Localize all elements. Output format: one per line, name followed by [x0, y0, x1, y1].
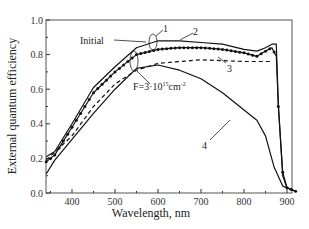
data-marker — [195, 46, 198, 49]
data-marker — [122, 63, 125, 66]
data-marker — [174, 47, 177, 50]
data-marker — [139, 52, 142, 55]
data-marker — [234, 50, 237, 53]
data-marker — [144, 51, 147, 54]
data-marker — [251, 54, 254, 57]
curve-label-1: 1 — [163, 23, 168, 34]
eqe-chart: 4005006007008009000.00.20.40.60.81.0 Ini… — [0, 0, 309, 229]
data-marker — [92, 91, 95, 94]
data-marker — [45, 160, 48, 163]
data-marker — [96, 87, 99, 90]
data-marker — [83, 105, 86, 108]
curve-label-4: 4 — [202, 140, 207, 151]
data-marker — [217, 48, 220, 51]
data-marker — [255, 55, 258, 58]
data-marker — [71, 126, 74, 129]
data-marker — [66, 133, 69, 136]
axis-ticks: 4005006007008009000.00.20.40.60.81.0 — [31, 15, 295, 208]
data-marker — [191, 46, 194, 49]
data-marker — [182, 46, 185, 49]
data-marker — [230, 49, 233, 52]
x-axis-title: Wavelength, nm — [112, 206, 191, 220]
x-tick-label: 900 — [280, 196, 295, 207]
data-marker — [204, 47, 207, 50]
x-tick-label: 400 — [65, 196, 80, 207]
data-marker — [273, 51, 276, 54]
fluence-label: F=3·1015cm-2 — [133, 81, 186, 92]
data-marker — [268, 47, 271, 50]
data-marker — [247, 53, 250, 56]
data-marker — [53, 153, 56, 156]
data-marker — [105, 79, 108, 82]
data-marker — [148, 50, 151, 53]
data-marker — [264, 50, 267, 53]
data-marker — [49, 157, 52, 160]
data-marker — [79, 112, 82, 115]
data-marker — [114, 70, 117, 73]
data-marker — [212, 47, 215, 50]
data-marker — [75, 119, 78, 122]
data-marker — [225, 49, 228, 52]
curve-1 — [46, 41, 295, 192]
data-marker — [88, 98, 91, 101]
data-marker — [131, 57, 134, 60]
data-marker — [161, 48, 164, 51]
data-marker — [200, 46, 203, 49]
data-marker — [281, 171, 284, 174]
data-marker — [187, 46, 190, 49]
x-tick-label: 800 — [237, 196, 252, 207]
data-marker — [157, 48, 160, 51]
y-tick-label: 0.0 — [31, 188, 44, 199]
x-tick-label: 700 — [194, 196, 209, 207]
data-marker — [243, 51, 246, 54]
leader-1 — [156, 30, 163, 36]
data-marker — [178, 46, 181, 49]
data-marker — [118, 67, 121, 70]
initial-label: Initial — [80, 35, 104, 46]
y-tick-label: 0.4 — [31, 118, 44, 129]
data-marker — [277, 105, 280, 108]
data-marker — [238, 51, 241, 54]
data-marker — [126, 60, 129, 63]
curve-label-2: 2 — [193, 26, 198, 37]
y-tick-label: 1.0 — [31, 15, 44, 26]
y-axis-title: External quantum efficiency — [5, 38, 19, 174]
data-marker — [62, 140, 65, 143]
data-marker — [101, 83, 104, 86]
group-ellipse-2 — [130, 51, 138, 71]
data-marker — [260, 52, 263, 55]
leader-4 — [210, 120, 230, 140]
curve-label-3: 3 — [227, 63, 232, 74]
y-tick-label: 0.6 — [31, 84, 44, 95]
leader-2 — [180, 33, 193, 40]
data-marker — [169, 47, 172, 50]
data-marker — [109, 75, 112, 78]
initial-leader — [114, 40, 146, 42]
y-tick-label: 0.8 — [31, 49, 44, 60]
curve-2 — [46, 48, 295, 192]
data-curves — [45, 41, 297, 193]
data-marker — [208, 47, 211, 50]
data-marker — [165, 47, 168, 50]
y-tick-label: 0.2 — [31, 153, 44, 164]
annotations: Initial 1 2 3 F=3·1015cm-2 4 — [80, 23, 232, 151]
data-marker — [221, 48, 224, 51]
